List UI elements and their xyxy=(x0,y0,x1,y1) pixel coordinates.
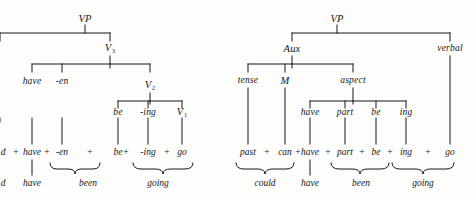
right-node-ing: ing xyxy=(400,107,413,117)
right-node-verbal: verbal xyxy=(437,43,462,53)
right-result-have: have xyxy=(301,178,319,188)
right-string-plus-4: + xyxy=(387,147,392,157)
left-node-v2: V2 xyxy=(145,79,155,91)
left-string-plus-3: + xyxy=(123,147,128,157)
right-string-plus-1: + xyxy=(295,147,300,157)
left-node-v1: V1 xyxy=(177,106,187,118)
left-node-vp: VP xyxy=(78,13,91,24)
left-node-v3: V3 xyxy=(105,42,115,54)
right-node-modal: M xyxy=(281,75,290,86)
left-node-have: have xyxy=(23,76,42,86)
left-string-item-ing: -ing xyxy=(140,147,155,157)
right-string-plus-0: + xyxy=(264,147,269,157)
left-node-v3-subscript: 3 xyxy=(111,48,115,54)
right-result-could: could xyxy=(254,178,275,188)
left-node-v2-label: V xyxy=(145,79,152,90)
left-node-v3-label: V xyxy=(105,42,112,53)
left-result-clipped-prefix: d xyxy=(1,178,6,188)
right-string-plus-5: + xyxy=(425,147,430,157)
left-result-been: been xyxy=(79,178,97,188)
left-string-plus-1: + xyxy=(44,147,49,157)
left-result-going: going xyxy=(147,178,169,188)
left-string-clipped-prefix: d xyxy=(1,147,6,157)
right-string-item-can: can xyxy=(278,147,292,157)
left-string-item-en: -en xyxy=(56,147,68,157)
left-node-v1-subscript: 1 xyxy=(183,112,187,118)
right-string-item-ing: ing xyxy=(400,147,412,157)
left-node-v2-subscript: 2 xyxy=(151,85,155,91)
right-string-plus-3: + xyxy=(359,147,364,157)
right-string-item-be: be xyxy=(372,147,381,157)
right-node-have: have xyxy=(301,107,320,117)
right-result-been: been xyxy=(352,178,370,188)
right-string-item-past: past xyxy=(240,147,256,157)
right-string-plus-2: + xyxy=(325,147,330,157)
right-string-item-go: go xyxy=(445,147,455,157)
figure-canvas: VP V3 have -en V2 be -ing V1 d + have + … xyxy=(0,0,476,200)
right-node-tense: tense xyxy=(238,75,259,85)
left-string-plus-2: + xyxy=(87,147,92,157)
left-string-item-have: have xyxy=(23,147,41,157)
right-string-item-part: part xyxy=(337,147,353,157)
right-result-going: going xyxy=(412,178,434,188)
right-node-part: part xyxy=(337,107,354,117)
right-node-be: be xyxy=(371,107,380,117)
tree-branch-lines xyxy=(0,0,476,200)
left-node-be: be xyxy=(113,107,122,117)
left-result-have: have xyxy=(23,178,41,188)
left-string-plus-4: + xyxy=(164,147,169,157)
right-node-aspect: aspect xyxy=(340,75,365,85)
left-node-en: -en xyxy=(56,76,69,86)
right-node-vp: VP xyxy=(330,13,343,24)
left-node-ing: -ing xyxy=(140,107,156,117)
right-node-aux: Aux xyxy=(284,43,301,54)
left-string-plus-0: + xyxy=(13,147,18,157)
left-node-v1-label: V xyxy=(177,106,184,117)
left-string-item-be: be xyxy=(114,147,123,157)
right-string-item-have: have xyxy=(301,147,319,157)
left-string-item-go: go xyxy=(177,147,187,157)
